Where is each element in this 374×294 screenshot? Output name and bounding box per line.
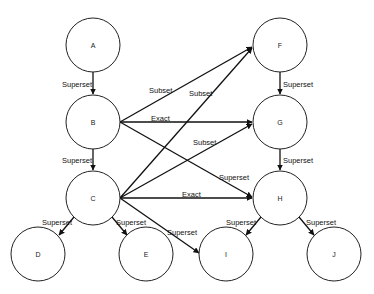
node-label: I: [225, 251, 227, 258]
node-label: G: [277, 119, 282, 126]
diagram-canvas: Superset Superset Superset Superset Supe…: [0, 0, 374, 294]
edge-label: Superset: [62, 156, 93, 165]
edge-label: Superset: [226, 218, 257, 227]
edge-label: Superset: [306, 218, 337, 227]
edge-label: Subset: [193, 138, 217, 147]
nodes: A B C D E F G H: [11, 18, 361, 281]
node-label: C: [90, 195, 95, 202]
edge-label: Superset: [167, 228, 198, 237]
edge-label: Subset: [189, 89, 213, 98]
edge-g-h[interactable]: Superset: [280, 149, 314, 170]
edge-label: Superset: [283, 156, 314, 165]
node-label: E: [144, 251, 149, 258]
edge-label: Superset: [116, 218, 147, 227]
node-label: A: [91, 42, 96, 49]
edge-a-b[interactable]: Superset: [62, 72, 93, 94]
node-label: H: [277, 195, 282, 202]
edge-b-c[interactable]: Superset: [62, 149, 93, 170]
edge-label: Superset: [62, 80, 93, 89]
node-b[interactable]: B: [66, 95, 120, 149]
edge-label: Superset: [219, 173, 250, 182]
edge-b-f[interactable]: Subset: [120, 47, 252, 122]
edge-f-g[interactable]: Superset: [280, 72, 314, 94]
edge-label: Subset: [149, 86, 173, 95]
node-d[interactable]: D: [11, 227, 65, 281]
edge-b-h[interactable]: Superset: [120, 122, 252, 197]
edge-b-g[interactable]: Exact: [120, 114, 252, 123]
node-label: D: [35, 251, 40, 258]
node-label: F: [278, 42, 282, 49]
edge-label: Exact: [151, 114, 171, 123]
node-label: B: [91, 119, 96, 126]
node-f[interactable]: F: [253, 18, 307, 72]
node-label: J: [332, 251, 336, 258]
node-g[interactable]: G: [253, 95, 307, 149]
edge-label: Superset: [283, 80, 314, 89]
edge-label: Exact: [182, 190, 202, 199]
node-c[interactable]: C: [66, 171, 120, 225]
node-e[interactable]: E: [119, 227, 173, 281]
node-j[interactable]: J: [307, 227, 361, 281]
node-a[interactable]: A: [66, 18, 120, 72]
node-h[interactable]: H: [253, 171, 307, 225]
node-i[interactable]: I: [199, 227, 253, 281]
edge-c-g[interactable]: Subset: [120, 124, 252, 198]
edge-label: Superset: [42, 218, 73, 227]
edge-c-h[interactable]: Exact: [120, 190, 252, 199]
